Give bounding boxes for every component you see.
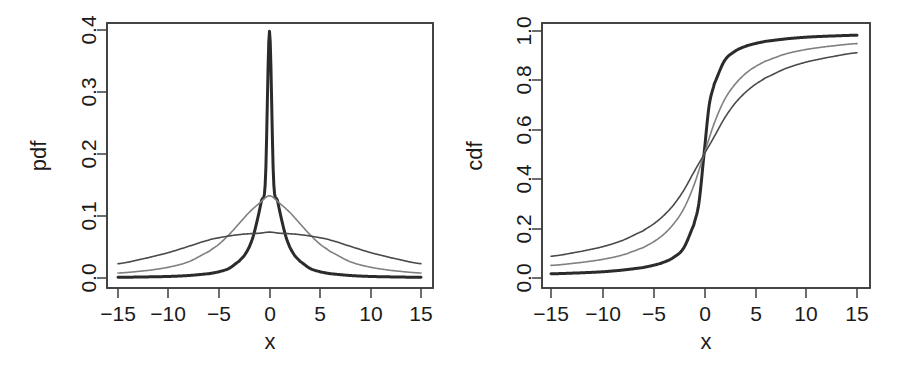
x-tick-label: 0 — [699, 302, 711, 325]
figure-root: −15−10−50510150.00.10.20.30.4pdfx−15−10−… — [0, 0, 899, 382]
y-tick-label: 0.3 — [77, 77, 100, 106]
x-axis-title: x — [701, 329, 712, 354]
y-tick-label: 0.0 — [512, 263, 535, 292]
x-tick-label: −10 — [585, 302, 621, 325]
x-tick-label: −5 — [642, 302, 666, 325]
y-tick-label: 0.2 — [512, 214, 535, 243]
x-tick-label: 0 — [264, 302, 276, 325]
y-tick-label: 0.8 — [512, 65, 535, 94]
y-tick-label: 0.4 — [512, 164, 535, 194]
y-tick-label: 0.4 — [77, 15, 100, 45]
x-tick-label: −15 — [100, 302, 136, 325]
curve-narrow-pdf — [118, 31, 421, 277]
x-tick-label: −10 — [150, 302, 186, 325]
curve-wide-pdf — [118, 232, 421, 264]
x-tick-label: −5 — [207, 302, 231, 325]
y-tick-label: 1.0 — [512, 16, 535, 45]
x-tick-label: 15 — [845, 302, 868, 325]
y-axis-title: cdf — [462, 140, 487, 170]
plot-box — [542, 23, 870, 288]
x-tick-label: 5 — [314, 302, 326, 325]
curve-wide-cdf — [551, 53, 857, 257]
x-tick-label: 10 — [794, 302, 817, 325]
y-axis-title: pdf — [26, 140, 51, 171]
cdf-panel: −15−10−50510150.00.20.40.60.81.0cdfx — [462, 16, 870, 354]
x-tick-label: 15 — [409, 302, 432, 325]
curve-medium-pdf — [118, 196, 421, 273]
y-tick-label: 0.6 — [512, 115, 535, 144]
x-tick-label: 10 — [359, 302, 382, 325]
pdf-panel: −15−10−50510150.00.10.20.30.4pdfx — [26, 15, 433, 354]
y-tick-label: 0.0 — [77, 263, 100, 292]
x-tick-label: −15 — [533, 302, 569, 325]
x-tick-label: 5 — [750, 302, 762, 325]
y-tick-label: 0.1 — [77, 201, 100, 230]
plot-canvas: −15−10−50510150.00.10.20.30.4pdfx−15−10−… — [0, 0, 899, 382]
x-axis-title: x — [265, 329, 276, 354]
plot-box-overlay — [542, 23, 870, 288]
y-tick-label: 0.2 — [77, 139, 100, 168]
